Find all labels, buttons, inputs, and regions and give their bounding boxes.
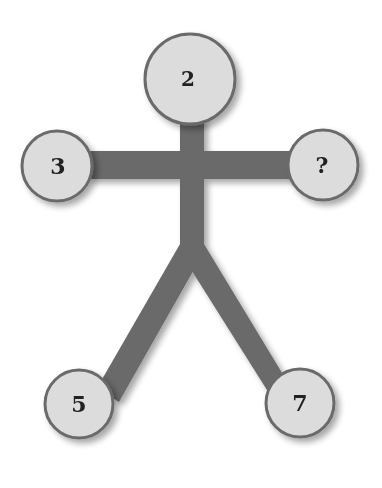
right-foot-number: 7	[292, 390, 307, 416]
right-leg	[180, 244, 290, 398]
right-hand-node: ?	[288, 130, 358, 200]
left-hand-number: 3	[50, 153, 65, 179]
limbs	[88, 118, 292, 402]
right-foot-node: 7	[266, 369, 334, 437]
stick-figure-diagram: 2 3 ? 5 7	[0, 0, 382, 488]
head-number: 2	[181, 67, 195, 91]
left-foot-number: 5	[71, 391, 86, 417]
left-leg	[97, 244, 204, 402]
left-hand-node: 3	[22, 131, 92, 201]
head-node: 2	[145, 34, 235, 124]
right-hand-unknown: ?	[316, 152, 329, 178]
left-foot-node: 5	[45, 370, 113, 438]
torso	[180, 118, 204, 248]
